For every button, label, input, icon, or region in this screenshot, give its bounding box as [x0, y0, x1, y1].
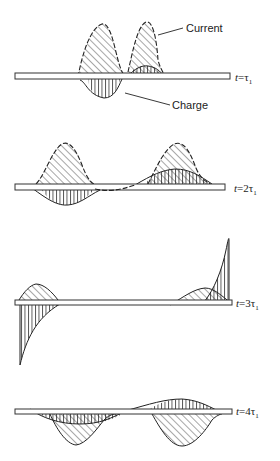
current-waveform [78, 24, 125, 77]
current-label: Current [186, 22, 223, 34]
time-label-2: t=2τ1 [234, 182, 257, 197]
panel-t2: t=2τ1 [15, 143, 257, 205]
panel-t1: Current Charge t=τ1 [15, 22, 253, 111]
current-waveform [36, 143, 94, 184]
charge-waveform [88, 79, 120, 98]
panel-t3: t=3τ1 [15, 238, 259, 365]
transmission-line-bar [15, 409, 232, 414]
charge-waveform [40, 414, 122, 424]
charge-waveform [20, 305, 58, 365]
time-label-3: t=3τ1 [236, 297, 259, 312]
transmission-line-bar [15, 73, 230, 79]
transmission-line-bar [15, 300, 232, 305]
time-label-1: t=τ1 [235, 71, 253, 86]
current-waveform-2 [152, 414, 222, 446]
charge-label: Charge [172, 99, 208, 111]
time-label-4: t=4τ1 [236, 405, 259, 420]
pulse-propagation-diagram: Current Charge t=τ1 t=2τ1 t=3τ1 [0, 0, 280, 461]
panel-t4: t=4τ1 [15, 399, 259, 446]
